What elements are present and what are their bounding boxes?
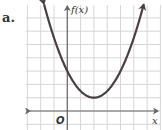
origin-label: O [56,115,65,126]
y-axis-label: f(x) [70,4,88,15]
parabola-graph: f(x) x O [0,0,163,130]
x-axis-label: x [152,115,158,126]
